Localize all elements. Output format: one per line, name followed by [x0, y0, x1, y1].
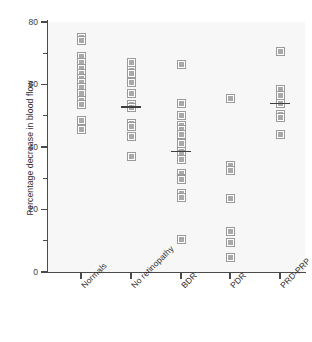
data-point-marker	[128, 133, 135, 140]
y-axis-title: Percentage decrease in blood flow	[25, 38, 35, 258]
data-point-marker	[178, 236, 185, 243]
chart-root: 020406080 Percentage decrease in blood f…	[0, 0, 312, 342]
data-point-marker	[78, 37, 85, 44]
data-point-marker	[178, 194, 185, 201]
x-axis-tick	[80, 273, 81, 279]
y-axis-tick-label: 0	[16, 268, 38, 277]
data-point-marker	[178, 100, 185, 107]
data-point-marker	[227, 167, 234, 174]
x-axis-tick	[279, 273, 280, 279]
plot-area	[47, 22, 305, 272]
data-point-marker	[227, 95, 234, 102]
y-axis-tick-major	[41, 209, 47, 210]
data-point-marker	[178, 131, 185, 138]
data-point-marker	[178, 140, 185, 147]
data-point-marker	[128, 153, 135, 160]
y-axis-tick-minor	[43, 115, 47, 116]
data-point-marker	[227, 228, 234, 235]
x-axis-tick	[180, 273, 181, 279]
data-point-marker	[128, 59, 135, 66]
data-point-marker	[128, 70, 135, 77]
median-line	[270, 103, 290, 104]
median-line	[171, 151, 191, 152]
data-point-marker	[277, 131, 284, 138]
median-line	[121, 106, 141, 107]
data-point-marker	[227, 195, 234, 202]
x-axis-line	[47, 272, 306, 273]
data-point-marker	[78, 117, 85, 124]
data-point-marker	[178, 112, 185, 119]
y-axis-line	[47, 20, 48, 273]
y-axis-tick-major	[41, 21, 47, 22]
x-axis-tick	[130, 273, 131, 279]
data-point-marker	[227, 239, 234, 246]
y-axis-tick-major	[41, 271, 47, 272]
data-point-marker	[128, 90, 135, 97]
y-axis-tick-minor	[43, 53, 47, 54]
y-axis-tick-minor	[43, 178, 47, 179]
x-axis-tick	[229, 273, 230, 279]
data-point-marker	[178, 176, 185, 183]
data-point-marker	[78, 101, 85, 108]
data-point-marker	[78, 126, 85, 133]
y-axis-tick-major	[41, 146, 47, 147]
data-point-marker	[128, 79, 135, 86]
y-axis-tick-minor	[43, 240, 47, 241]
data-point-marker	[178, 156, 185, 163]
data-point-marker	[227, 254, 234, 261]
data-point-marker	[128, 123, 135, 130]
data-point-marker	[277, 92, 284, 99]
y-axis-tick-label: 80	[16, 18, 38, 27]
data-point-marker	[277, 48, 284, 55]
data-point-marker	[178, 61, 185, 68]
data-point-marker	[277, 114, 284, 121]
y-axis-tick-major	[41, 84, 47, 85]
